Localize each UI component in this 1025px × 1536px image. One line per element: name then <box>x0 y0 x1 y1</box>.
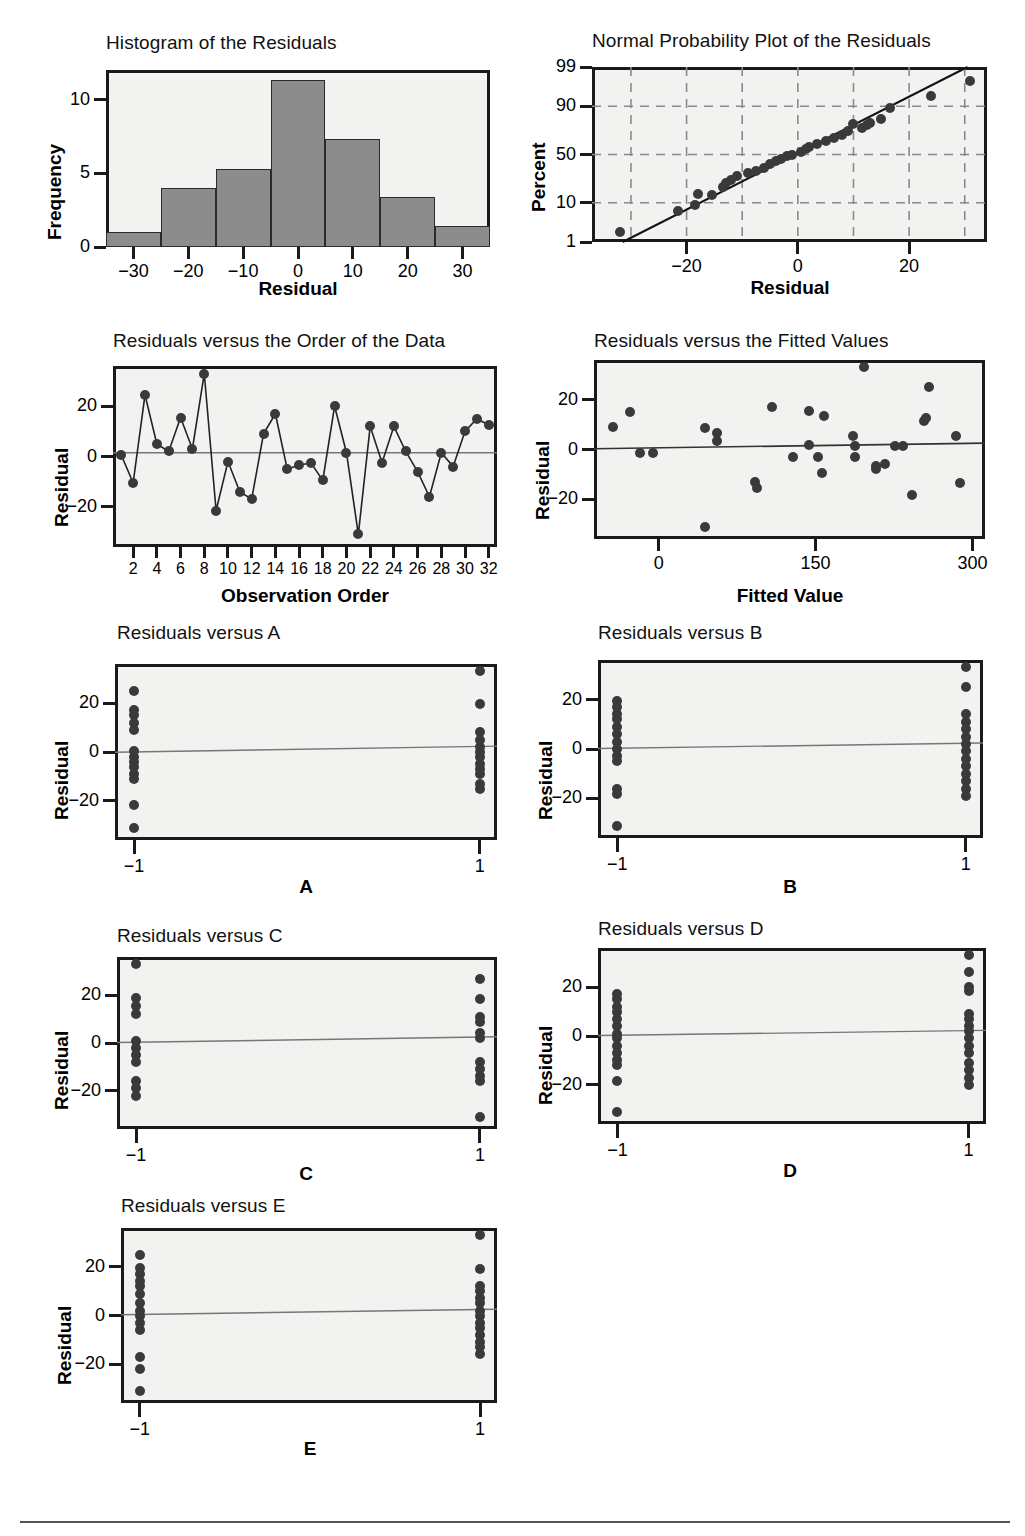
histogram-xtick <box>242 247 245 259</box>
histogram-bar <box>216 169 271 247</box>
order-point <box>436 448 446 458</box>
b-ytick <box>586 748 598 751</box>
fitted-xtick <box>971 539 974 551</box>
d-xtick <box>616 1124 619 1138</box>
fitted-point <box>648 448 658 458</box>
fitted-point <box>813 452 823 462</box>
order-point <box>472 414 482 424</box>
a-ytick-label: 20 <box>55 692 99 713</box>
b-point <box>961 791 971 801</box>
b-title: Residuals versus B <box>598 622 762 644</box>
a-point <box>475 784 485 794</box>
e-title: Residuals versus E <box>121 1195 285 1217</box>
fitted-ytick <box>582 448 594 451</box>
fitted-point <box>767 402 777 412</box>
e-ytick <box>109 1314 121 1317</box>
order-xtick <box>132 547 135 558</box>
c-point <box>475 1112 485 1122</box>
b-ytick <box>586 797 598 800</box>
a-point <box>129 823 139 833</box>
a-point <box>129 774 139 784</box>
order-xtick <box>226 547 229 558</box>
fitted-xtick <box>814 539 817 551</box>
npp-xtick-label: 20 <box>879 256 939 277</box>
c-point <box>131 1091 141 1101</box>
c-ytick-label: 0 <box>57 1032 101 1053</box>
npp-point <box>690 200 700 210</box>
d-xtick <box>967 1124 970 1138</box>
order-ytick <box>101 455 113 458</box>
fitted-xtick <box>657 539 660 551</box>
order-xtick <box>155 547 158 558</box>
c-xtick-label: 1 <box>450 1145 510 1166</box>
histogram-bar <box>271 80 326 247</box>
b-xtick-label: −1 <box>587 854 647 875</box>
c-point <box>475 994 485 1004</box>
npp-ytick-label: 1 <box>532 231 576 252</box>
b-reference-line <box>598 743 983 748</box>
b-xlabel: B <box>690 876 890 898</box>
fitted-xlabel: Fitted Value <box>690 585 890 607</box>
c-title: Residuals versus C <box>117 925 282 947</box>
order-point <box>259 429 269 439</box>
d-ytick-label: 20 <box>538 976 582 997</box>
fitted-point <box>819 411 829 421</box>
npp-xtick <box>908 242 911 254</box>
order-point <box>306 458 316 468</box>
d-point <box>964 950 974 960</box>
order-xlabel: Observation Order <box>205 585 405 607</box>
npp-ytick-label: 90 <box>532 95 576 116</box>
npp-ytick <box>580 153 592 156</box>
order-ytick <box>101 505 113 508</box>
d-reference-line <box>598 1030 986 1035</box>
histogram-xlabel: Residual <box>198 278 398 300</box>
fitted-xtick-label: 300 <box>942 553 1002 574</box>
npp-ytick-label: 50 <box>532 144 576 165</box>
d-ytick-label: −20 <box>538 1074 582 1095</box>
npp-point <box>876 114 886 124</box>
npp-xtick <box>685 242 688 254</box>
histogram-bar <box>435 226 490 247</box>
fitted-point <box>951 431 961 441</box>
npp-point <box>885 103 895 113</box>
e-ytick-label: 0 <box>61 1305 105 1326</box>
npp-point <box>707 190 717 200</box>
c-ytick-label: −20 <box>57 1080 101 1101</box>
npp-point <box>615 227 625 237</box>
d-point <box>964 967 974 977</box>
c-ytick-label: 20 <box>57 984 101 1005</box>
order-point <box>128 478 138 488</box>
e-point <box>135 1250 145 1260</box>
fitted-point <box>788 452 798 462</box>
order-xtick <box>464 547 467 558</box>
d-ytick-label: 0 <box>538 1025 582 1046</box>
npp-ytick-label: 99 <box>532 56 576 77</box>
order-polyline <box>121 374 488 535</box>
order-point <box>377 458 387 468</box>
a-point <box>475 769 485 779</box>
e-point <box>135 1352 145 1362</box>
npp-ytick <box>580 201 592 204</box>
c-ytick <box>105 1042 117 1045</box>
a-ytick <box>103 702 115 705</box>
histogram-ylabel: Frequency <box>44 144 66 240</box>
order-xtick <box>179 547 182 558</box>
b-xtick-label: 1 <box>936 854 996 875</box>
a-xtick-label: −1 <box>104 856 164 877</box>
histogram-bar <box>106 232 161 247</box>
e-ytick <box>109 1265 121 1268</box>
fitted-xtick-label: 150 <box>786 553 846 574</box>
e-ytick-label: 20 <box>61 1256 105 1277</box>
d-title: Residuals versus D <box>598 918 763 940</box>
a-xlabel: A <box>206 876 406 898</box>
histogram-ytick <box>94 172 106 175</box>
a-canvas <box>115 664 497 840</box>
b-ytick-label: 20 <box>538 689 582 710</box>
order-point <box>140 390 150 400</box>
histogram-ytick <box>94 98 106 101</box>
e-point <box>135 1386 145 1396</box>
a-point <box>129 686 139 696</box>
histogram-bar <box>380 197 435 247</box>
order-point <box>247 494 257 504</box>
e-point <box>135 1325 145 1335</box>
